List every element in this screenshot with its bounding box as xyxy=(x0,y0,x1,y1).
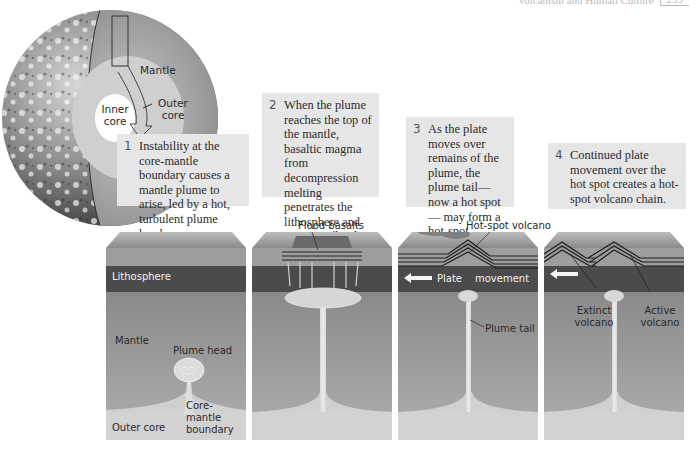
label-movement: movement xyxy=(475,273,529,285)
step-number: 4 xyxy=(555,148,563,163)
step-number: 1 xyxy=(124,139,132,154)
label-active-volcano: Active volcano xyxy=(637,305,683,329)
label-core-mantle-boundary: Core-mantle boundary xyxy=(186,400,246,436)
block-diagram-3 xyxy=(398,232,538,440)
block-diagram-4 xyxy=(544,232,684,440)
page-header: Volcanism and Human Culture 259 xyxy=(518,0,689,6)
globe-label-mantle: Mantle xyxy=(140,64,176,76)
caption-step-3: 3 As the plate moves over remains of the… xyxy=(406,117,514,207)
label-plume-tail: Plume tail xyxy=(485,323,535,335)
label-extinct-volcano: Extinct volcano xyxy=(571,305,617,329)
label-plate: Plate xyxy=(437,273,462,285)
step-number: 2 xyxy=(269,98,277,113)
label-lithosphere: Lithosphere xyxy=(112,271,171,283)
running-title: Volcanism and Human Culture xyxy=(518,0,654,6)
globe-label-outer-core: Outer core xyxy=(153,97,193,121)
step-number: 3 xyxy=(413,122,421,137)
page-number: 259 xyxy=(660,0,690,6)
label-plume-head: Plume head xyxy=(173,345,232,357)
plume-head-flattened xyxy=(285,288,361,308)
block-diagram-2 xyxy=(252,232,392,440)
plume-stem xyxy=(320,302,326,412)
label-flood-basalts: Flood basalts xyxy=(298,220,364,232)
caption-text: Instability at the core-mantle boundary … xyxy=(139,139,230,241)
globe-label-inner-core: Inner core xyxy=(100,103,130,127)
plume-tail xyxy=(466,292,471,412)
label-hot-spot-volcano: Hot-spot volcano xyxy=(466,220,551,232)
caption-step-4: 4 Continued plate movement over the hot … xyxy=(548,143,686,209)
flood-basalt-plateau xyxy=(292,236,352,248)
label-outer-core: Outer core xyxy=(112,422,165,434)
plume-head xyxy=(174,358,204,382)
caption-step-2: 2 When the plume reaches the top of the … xyxy=(262,93,379,197)
caption-step-1: 1 Instability at the core-mantle boundar… xyxy=(117,134,249,206)
caption-text: Continued plate movement over the hot sp… xyxy=(570,148,679,206)
label-mantle: Mantle xyxy=(115,335,149,347)
